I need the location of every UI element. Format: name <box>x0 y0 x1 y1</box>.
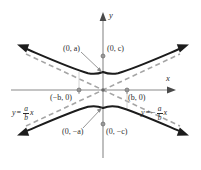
asymptote-right-numerator: a <box>157 105 163 113</box>
y-axis-arrowhead <box>100 12 107 21</box>
asymptote-right-denominator: b <box>157 114 163 122</box>
point-marker-focus-bottom <box>101 122 105 126</box>
branch-arrowhead-upper-left <box>17 44 29 52</box>
label-focus-top: (0, c) <box>107 45 124 53</box>
y-axis-label: y <box>109 11 113 20</box>
asymptote-left-fraction: a b <box>23 105 29 121</box>
asymptote-right-equals: = <box>146 109 151 117</box>
axes-group <box>11 12 176 158</box>
label-vertex-top: (0, a) <box>63 45 80 53</box>
hyperbola-figure: y x (0, a) (0, c) (−b, 0) (b, 0) (0, −a)… <box>0 0 201 170</box>
label-conjugate-left: (−b, 0) <box>50 94 72 102</box>
asymptote-right-lhs: y <box>141 109 145 117</box>
asymptote-equation-left: y = a b x <box>12 105 34 121</box>
asymptote-right-variable: x <box>164 109 168 117</box>
label-vertex-bottom: (0, −a) <box>62 128 83 136</box>
branch-arrowhead-lower-right <box>177 127 189 135</box>
asymptote-equation-right: y = − a b x <box>141 105 167 121</box>
point-marker-focus-top <box>101 54 105 58</box>
label-focus-bottom: (0, −c) <box>106 128 127 136</box>
branch-arrowhead-lower-left <box>17 127 29 135</box>
leader-line-vertex-bottom <box>83 110 100 128</box>
point-marker-origin <box>101 88 105 92</box>
asymptote-left-numerator: a <box>23 105 29 113</box>
branch-arrowhead-upper-right <box>177 44 189 52</box>
x-axis-arrowhead <box>167 87 176 94</box>
asymptote-left-denominator: b <box>23 114 29 122</box>
asymptote-right-sign: − <box>151 109 156 117</box>
asymptote-left-variable: x <box>30 109 34 117</box>
asymptote-right-fraction: a b <box>157 105 163 121</box>
leader-line-vertex-top <box>81 52 100 70</box>
x-axis-label: x <box>166 74 170 83</box>
label-conjugate-right: (b, 0) <box>128 94 145 102</box>
asymptote-left-equals: = <box>17 109 22 117</box>
asymptote-left-lhs: y <box>12 109 16 117</box>
hyperbola-graphics <box>0 0 201 170</box>
